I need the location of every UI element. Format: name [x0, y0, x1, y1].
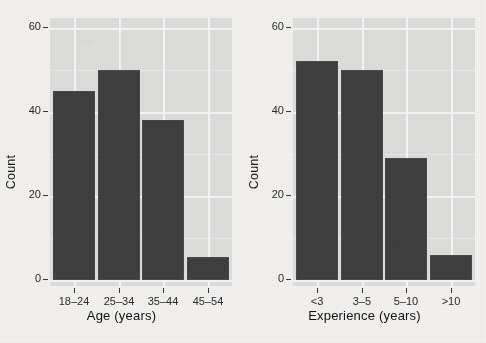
y-tick-mark-icon	[43, 111, 48, 112]
gridline-x-4	[451, 18, 453, 286]
x-tick-mark-icon	[406, 288, 407, 293]
y-tick-mark-icon	[43, 279, 48, 280]
bar-25-34	[98, 70, 140, 280]
chart-panel-experience: Count 0 20 40 60	[243, 0, 486, 343]
x-axis-title-left: Age (years)	[0, 308, 243, 323]
y-tick-mark-icon	[286, 279, 291, 280]
y-tick-mark-icon	[286, 195, 291, 196]
gridline-y-0	[293, 280, 475, 282]
y-tick-mark-icon	[286, 27, 291, 28]
bar-45-54	[187, 257, 229, 280]
y-tick-mark-icon	[286, 111, 291, 112]
x-tick-mark-icon	[317, 288, 318, 293]
bar-3-5	[341, 70, 383, 280]
gridline-y-60	[293, 28, 475, 30]
chart-panel-age: Count 0 20 40 60	[0, 0, 243, 343]
x-tick-mark-icon	[119, 288, 120, 293]
x-axis-title-right: Experience (years)	[243, 308, 486, 323]
gridline-x-4	[208, 18, 210, 286]
x-tick-mark-icon	[208, 288, 209, 293]
gridline-y-0	[50, 280, 232, 282]
x-tick-mark-icon	[74, 288, 75, 293]
y-tick-mark-icon	[43, 195, 48, 196]
gridline-y-50	[50, 70, 232, 71]
x-tick-mark-icon	[362, 288, 363, 293]
bar-gt10	[430, 255, 472, 280]
bar-5-10	[385, 158, 427, 280]
bar-18-24	[53, 91, 95, 280]
figure: Count 0 20 40 60	[0, 0, 486, 343]
bar-35-44	[142, 120, 184, 280]
x-tick-mark-icon	[451, 288, 452, 293]
gridline-y-60	[50, 28, 232, 30]
y-tick-mark-icon	[43, 27, 48, 28]
y-axis-left: 0 20 40 60	[6, 0, 50, 343]
y-axis-right: 0 20 40 60	[249, 0, 293, 343]
plot-area-left	[50, 18, 232, 286]
x-tick-mark-icon	[163, 288, 164, 293]
plot-area-right	[293, 18, 475, 286]
bar-lt3	[296, 61, 338, 280]
